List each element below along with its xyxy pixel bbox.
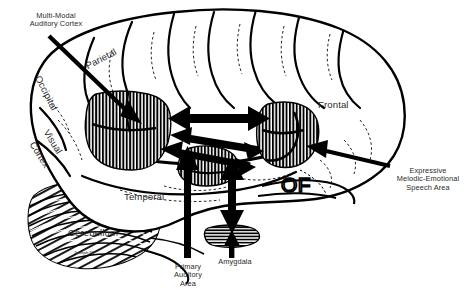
orbitofrontal-letters: OF [281, 173, 311, 196]
label-frontal: Frontal [318, 100, 349, 111]
label-temporal: Temporal [124, 192, 164, 203]
label-amygdala: Amygdala [206, 258, 264, 266]
label-primary-auditory-area: Primary Auditory Area [148, 263, 228, 288]
expressive-speech-area-patch [257, 102, 319, 168]
label-multi-modal-auditory-cortex: Multi-Modal Auditory Cortex [6, 12, 106, 29]
label-cerebellum: Cerebellum [68, 228, 118, 239]
brain-diagram: OF [0, 0, 468, 308]
artist-signature: Joseph 92 [74, 250, 94, 255]
label-expressive-speech-area: Expressive Melodic-Emotional Speech Area [388, 167, 468, 192]
